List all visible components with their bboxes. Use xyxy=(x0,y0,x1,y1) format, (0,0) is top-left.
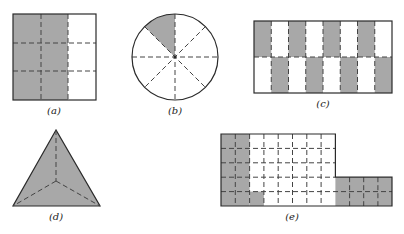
figure-c-label: (c) xyxy=(316,98,330,109)
figure-c: (c) xyxy=(254,21,392,109)
figure-a-label: (a) xyxy=(47,105,61,116)
figure-d-label: (d) xyxy=(49,211,63,222)
fraction-figures-diagram: (a) (b) (c) ( xyxy=(0,0,404,234)
figure-b-label: (b) xyxy=(168,105,182,116)
figure-e-label: (e) xyxy=(285,211,299,222)
figure-e: (e) xyxy=(221,134,392,222)
figure-d: (d) xyxy=(13,130,100,222)
figure-a: (a) xyxy=(13,14,96,116)
figure-b: (b) xyxy=(132,14,218,116)
